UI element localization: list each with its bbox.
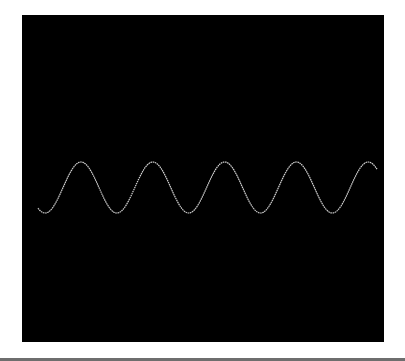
sine-wave-line	[38, 162, 377, 213]
waveform-plot	[0, 0, 405, 361]
